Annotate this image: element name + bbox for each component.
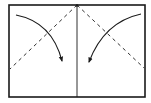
origami-diagram (0, 0, 151, 103)
left-valley-fold-line (10, 5, 77, 69)
right-valley-fold-line (77, 5, 144, 68)
left-fold-arrow-icon (16, 15, 62, 61)
top-center-point (76, 4, 79, 7)
right-fold-arrow-icon (89, 14, 141, 62)
